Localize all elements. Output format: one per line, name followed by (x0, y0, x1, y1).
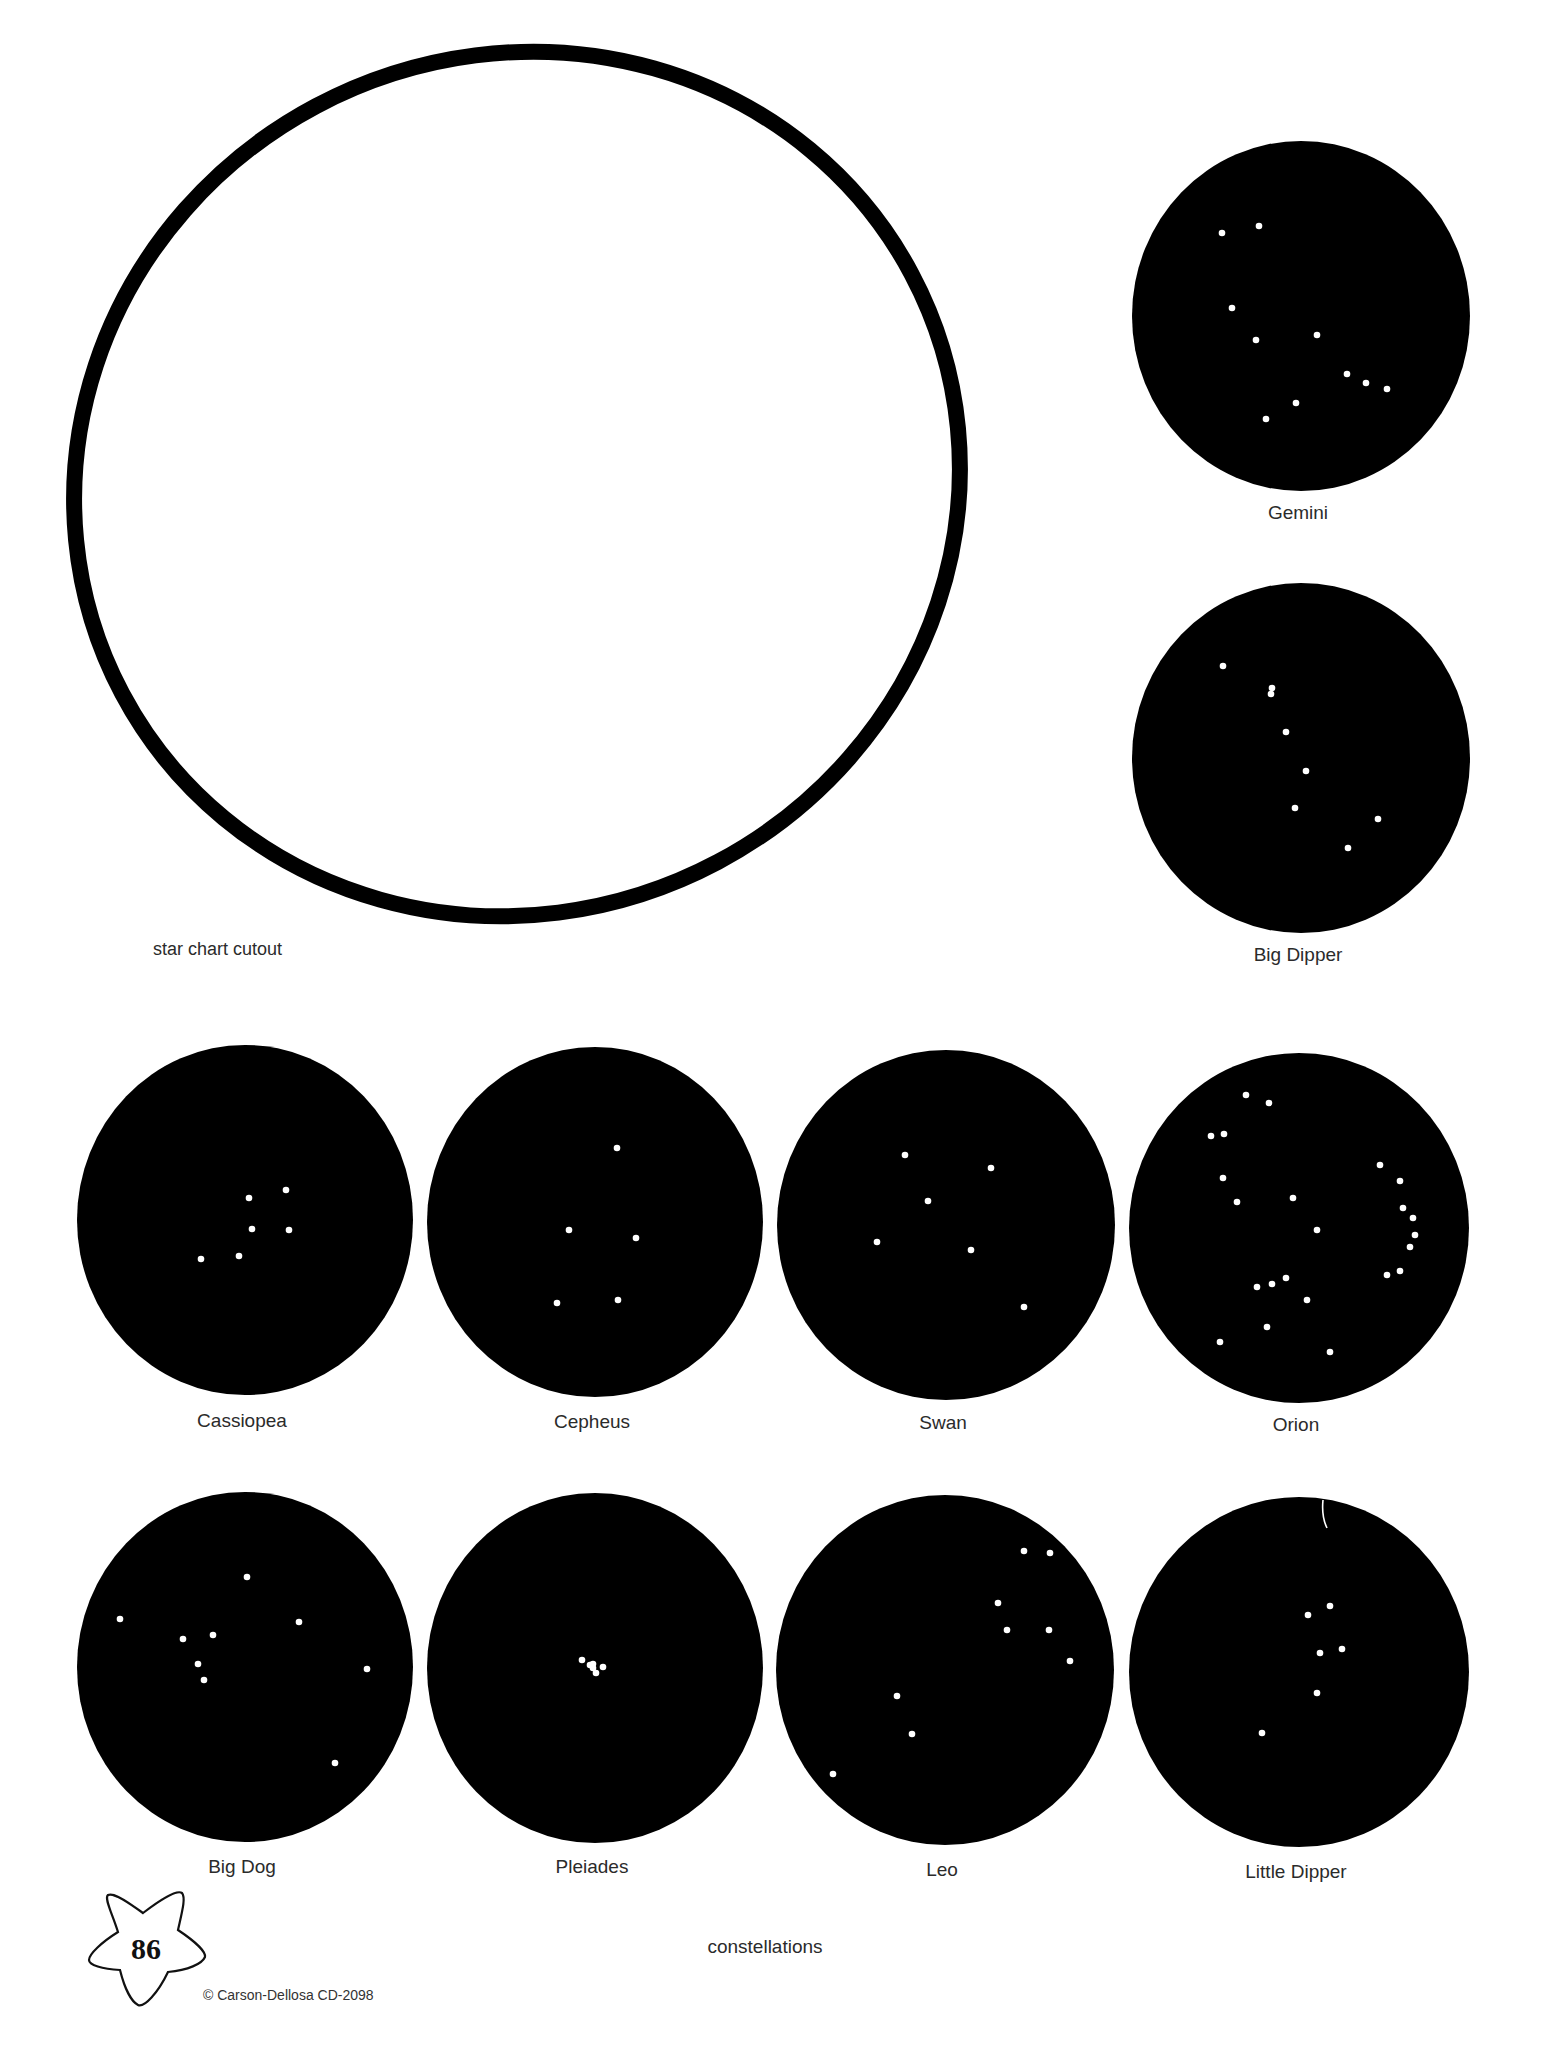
star-dot-icon (249, 1226, 256, 1233)
star-dot-icon (1268, 691, 1275, 698)
star-dot-icon (1259, 1730, 1266, 1737)
constellation-label: Leo (926, 1859, 958, 1880)
star-dot-icon (1384, 1272, 1391, 1279)
constellation-disc[interactable] (77, 1492, 413, 1842)
star-dot-icon (830, 1771, 837, 1778)
star-dot-icon (1046, 1627, 1053, 1634)
constellation-label: Orion (1273, 1414, 1319, 1435)
star-dot-icon (1397, 1268, 1404, 1275)
star-dot-icon (554, 1300, 561, 1307)
star-dot-icon (902, 1152, 909, 1159)
star-dot-icon (1229, 305, 1236, 312)
star-dot-icon (593, 1670, 600, 1677)
star-dot-icon (874, 1239, 881, 1246)
star-dot-icon (1377, 1162, 1384, 1169)
constellation-disc[interactable] (1132, 141, 1470, 491)
star-dot-icon (1344, 371, 1351, 378)
footer: 86 © Carson-Dellosa CD-2098 constellatio… (89, 1892, 823, 2005)
star-dot-icon (1234, 1199, 1241, 1206)
star-dot-icon (600, 1664, 607, 1671)
constellation-grid: GeminiBig DipperCassiopeaCepheusSwanOrio… (77, 141, 1470, 1882)
star-dot-icon (1305, 1612, 1312, 1619)
star-dot-icon (1339, 1646, 1346, 1653)
star-dot-icon (615, 1297, 622, 1304)
constellation-label: Cepheus (554, 1411, 630, 1432)
star-dot-icon (1221, 1131, 1228, 1138)
constellation-disc[interactable] (77, 1045, 413, 1395)
copyright-notice: © Carson-Dellosa CD-2098 (203, 1987, 374, 2003)
star-dot-icon (909, 1731, 916, 1738)
constellation-big-dog: Big Dog (77, 1492, 413, 1877)
star-dot-icon (1217, 1339, 1224, 1346)
constellation-label: Big Dog (208, 1856, 276, 1877)
star-dot-icon (1345, 845, 1352, 852)
star-dot-icon (286, 1227, 293, 1234)
constellation-gemini: Gemini (1132, 141, 1470, 523)
star-chart-cutout: star chart cutout (0, 0, 1113, 1072)
star-dot-icon (117, 1616, 124, 1623)
star-dot-icon (1292, 805, 1299, 812)
star-dot-icon (995, 1600, 1002, 1607)
constellation-orion: Orion (1129, 1053, 1469, 1435)
page-number-badge: 86 (89, 1892, 205, 2005)
star-dot-icon (1290, 1195, 1297, 1202)
star-dot-icon (1256, 223, 1263, 230)
star-dot-icon (1314, 332, 1321, 339)
constellation-disc[interactable] (776, 1495, 1114, 1845)
star-dot-icon (1263, 416, 1270, 423)
star-dot-icon (1220, 1175, 1227, 1182)
star-dot-icon (1004, 1627, 1011, 1634)
constellation-disc[interactable] (1132, 583, 1470, 933)
star-dot-icon (1363, 380, 1370, 387)
star-dot-icon (1021, 1548, 1028, 1555)
star-dot-icon (579, 1657, 586, 1664)
constellation-swan: Swan (777, 1050, 1115, 1433)
constellation-disc[interactable] (1129, 1497, 1469, 1847)
star-dot-icon (283, 1187, 290, 1194)
star-dot-icon (894, 1693, 901, 1700)
worksheet-canvas: star chart cutout GeminiBig DipperCassio… (0, 0, 1546, 2059)
star-dot-icon (1410, 1215, 1417, 1222)
constellation-disc[interactable] (427, 1047, 763, 1397)
star-dot-icon (1304, 1297, 1311, 1304)
worksheet-page: star chart cutout GeminiBig DipperCassio… (0, 0, 1546, 2059)
star-dot-icon (1021, 1304, 1028, 1311)
star-dot-icon (246, 1195, 253, 1202)
star-dot-icon (1293, 400, 1300, 407)
star-dot-icon (1266, 1100, 1273, 1107)
constellation-disc[interactable] (777, 1050, 1115, 1400)
constellation-label: Big Dipper (1254, 944, 1343, 965)
star-dot-icon (195, 1661, 202, 1668)
star-dot-icon (1384, 386, 1391, 393)
star-dot-icon (590, 1661, 597, 1668)
star-dot-icon (1253, 337, 1260, 344)
constellation-disc[interactable] (1129, 1053, 1469, 1403)
star-dot-icon (1314, 1690, 1321, 1697)
star-dot-icon (180, 1636, 187, 1643)
star-dot-icon (1269, 1281, 1276, 1288)
star-dot-icon (1047, 1550, 1054, 1557)
constellation-cepheus: Cepheus (427, 1047, 763, 1432)
star-dot-icon (1219, 230, 1226, 237)
star-dot-icon (1283, 729, 1290, 736)
constellation-label: Gemini (1268, 502, 1328, 523)
constellation-little-dipper: Little Dipper (1129, 1497, 1469, 1882)
star-dot-icon (364, 1666, 371, 1673)
constellation-label: Swan (919, 1412, 967, 1433)
cutout-ring[interactable] (0, 0, 1113, 1072)
star-dot-icon (988, 1165, 995, 1172)
star-dot-icon (201, 1677, 208, 1684)
star-dot-icon (1400, 1205, 1407, 1212)
star-dot-icon (1303, 768, 1310, 775)
section-label: constellations (707, 1936, 822, 1957)
star-dot-icon (332, 1760, 339, 1767)
star-dot-icon (236, 1253, 243, 1260)
constellation-label: Pleiades (556, 1856, 629, 1877)
star-dot-icon (244, 1574, 251, 1581)
star-dot-icon (1208, 1133, 1215, 1140)
star-dot-icon (566, 1227, 573, 1234)
star-dot-icon (296, 1619, 303, 1626)
star-dot-icon (198, 1256, 205, 1263)
constellation-cassiopea: Cassiopea (77, 1045, 413, 1431)
star-dot-icon (1317, 1650, 1324, 1657)
